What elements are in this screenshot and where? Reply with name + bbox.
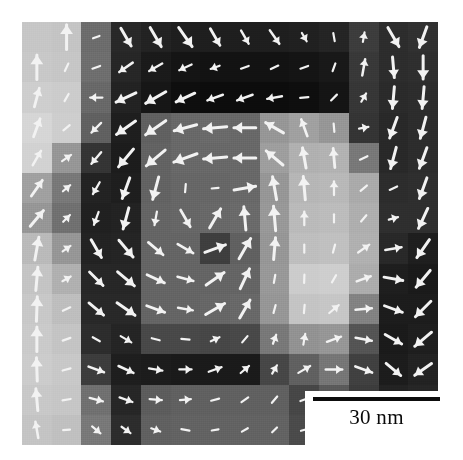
raster-cell	[408, 52, 438, 82]
raster-cell	[379, 294, 409, 324]
raster-cell	[22, 143, 52, 173]
raster-cell	[260, 294, 290, 324]
raster-cell	[230, 143, 260, 173]
raster-cell	[141, 415, 171, 445]
raster-cell	[349, 173, 379, 203]
raster-cell	[22, 203, 52, 233]
raster-cell	[52, 294, 82, 324]
raster-cell	[171, 233, 201, 263]
raster-cell	[171, 82, 201, 112]
raster-cell	[260, 264, 290, 294]
raster-cell	[111, 143, 141, 173]
raster-cell	[230, 294, 260, 324]
raster-cell	[408, 82, 438, 112]
raster-cell	[230, 415, 260, 445]
raster-cell	[349, 113, 379, 143]
raster-cell	[81, 264, 111, 294]
raster-cell	[111, 173, 141, 203]
raster-cell	[349, 324, 379, 354]
raster-cell	[379, 233, 409, 263]
scale-bar-label: 30 nm	[305, 405, 448, 430]
raster-cell	[52, 22, 82, 52]
raster-cell	[171, 354, 201, 384]
raster-cell	[52, 415, 82, 445]
raster-cell	[81, 294, 111, 324]
raster-cell	[171, 203, 201, 233]
raster-cell	[289, 203, 319, 233]
raster-cell	[141, 233, 171, 263]
raster-cell	[111, 52, 141, 82]
raster-cell	[349, 354, 379, 384]
raster-cell	[230, 264, 260, 294]
raster-cell	[289, 52, 319, 82]
raster-cell	[260, 354, 290, 384]
raster-cell	[141, 143, 171, 173]
raster-cell	[408, 264, 438, 294]
raster-cell	[171, 415, 201, 445]
raster-cell	[289, 82, 319, 112]
raster-cell	[171, 113, 201, 143]
raster-cell	[81, 143, 111, 173]
raster-cell	[171, 324, 201, 354]
raster-cell	[289, 233, 319, 263]
raster-cell	[200, 173, 230, 203]
raster-cell	[408, 113, 438, 143]
raster-cell	[171, 52, 201, 82]
raster-cell	[408, 324, 438, 354]
raster-cell	[171, 294, 201, 324]
raster-cell	[408, 143, 438, 173]
raster-cell	[171, 173, 201, 203]
raster-cell	[111, 203, 141, 233]
raster-cell	[111, 294, 141, 324]
raster-cell	[200, 113, 230, 143]
raster-cell	[319, 82, 349, 112]
raster-cell	[22, 294, 52, 324]
raster-cell	[349, 294, 379, 324]
raster-cell	[171, 385, 201, 415]
raster-cell	[289, 294, 319, 324]
raster-cell	[379, 113, 409, 143]
raster-cell	[379, 264, 409, 294]
raster-cell	[319, 203, 349, 233]
raster-cell	[111, 233, 141, 263]
scale-bar: 30 nm	[305, 391, 463, 460]
raster-cell	[141, 324, 171, 354]
raster-cell	[289, 173, 319, 203]
raster-cell	[141, 385, 171, 415]
raster-cell	[349, 203, 379, 233]
raster-cell	[52, 233, 82, 263]
raster-cell	[200, 354, 230, 384]
raster-cell	[289, 143, 319, 173]
raster-cell	[81, 203, 111, 233]
raster-cell	[200, 22, 230, 52]
raster-cell	[81, 324, 111, 354]
raster-cell	[289, 324, 319, 354]
raster-cell	[408, 173, 438, 203]
raster-cell	[111, 264, 141, 294]
raster-cell	[111, 385, 141, 415]
raster-cell	[52, 82, 82, 112]
raster-cell	[260, 143, 290, 173]
raster-cell	[260, 385, 290, 415]
raster-cell	[230, 82, 260, 112]
raster-cell	[52, 52, 82, 82]
raster-cell	[171, 143, 201, 173]
raster-cell	[81, 173, 111, 203]
micrograph-image	[22, 22, 438, 445]
raster-cell	[22, 415, 52, 445]
raster-cell	[260, 203, 290, 233]
raster-cell	[22, 233, 52, 263]
raster-cell	[319, 294, 349, 324]
raster-cell	[379, 324, 409, 354]
raster-cell	[141, 82, 171, 112]
raster-cell	[200, 264, 230, 294]
raster-cell	[200, 203, 230, 233]
raster-cell	[230, 324, 260, 354]
raster-cell	[141, 264, 171, 294]
raster-cell	[379, 203, 409, 233]
raster-cell	[230, 113, 260, 143]
raster-cell	[22, 52, 52, 82]
raster-cell	[408, 354, 438, 384]
raster-cell	[52, 385, 82, 415]
raster-cell	[230, 173, 260, 203]
